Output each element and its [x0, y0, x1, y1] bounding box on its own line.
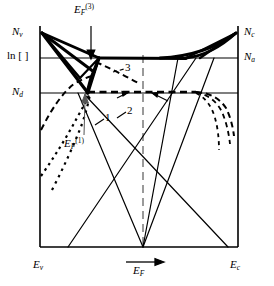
figure-root: Nv ln [ ] Nd Nc Na Ev EF Ec EF(3) EF(1) …	[0, 0, 274, 286]
thick-right-fan	[160, 33, 236, 58]
axis-label-Nv: Nv	[12, 26, 23, 39]
axis-label-EF: EF	[133, 265, 144, 278]
dashed-right-curves	[196, 92, 234, 150]
axis-label-Nc: Nc	[244, 26, 255, 39]
leader-line-2	[117, 112, 126, 118]
thin-straight-lines	[68, 58, 228, 247]
curve-label-2: 2	[127, 105, 133, 116]
axis-label-Nd: Nd	[12, 86, 23, 99]
curve-label-1: 1	[105, 112, 111, 123]
dashed-curve-3	[96, 62, 140, 84]
axis-label-Ec: Ec	[230, 259, 240, 272]
ef3-arrow	[87, 26, 95, 59]
axis-label-Na: Na	[244, 51, 255, 64]
plot-canvas	[0, 0, 274, 286]
curve-label-3: 3	[125, 62, 131, 73]
axis-label-Ev: Ev	[33, 259, 43, 272]
annotation-EF1: EF(1)	[64, 137, 84, 151]
annotation-EF3: EF(3)	[74, 3, 94, 17]
axis-label-ln: ln [ ]	[7, 50, 28, 61]
leader-line-1	[95, 119, 104, 125]
ef-direction-arrow	[126, 259, 164, 266]
